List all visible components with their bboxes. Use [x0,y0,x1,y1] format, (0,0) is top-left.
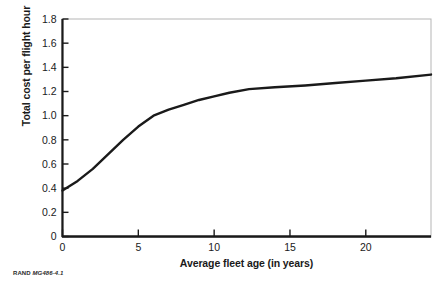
x-tick-label: 0 [60,241,66,253]
y-tick-label: 0.6 [42,158,57,170]
y-tick-label: 1.0 [42,109,57,121]
figure-container: Total cost per flight hour 00.20.40.60.8… [0,0,448,293]
figure-credit: RAND MG486-4.1 [13,270,63,276]
x-axis-title: Average fleet age (in years) [62,257,431,269]
data-line-total-cost [63,75,432,191]
y-tick-label: 0.2 [42,206,57,218]
plot-frame [62,19,431,237]
y-tick-label: 0.8 [42,134,57,146]
y-tick-label: 0 [51,230,57,242]
y-axis-title: Total cost per flight hour [20,0,32,166]
credit-figure-id: MG486-4.1 [33,270,64,276]
y-tick-label: 1.4 [42,61,57,73]
y-tick-label: 1.2 [42,85,57,97]
y-tick-label: 0.4 [42,182,57,194]
y-tick-label: 1.6 [42,37,57,49]
y-axis-ticks: 00.20.40.60.81.01.21.41.61.8 [42,13,69,243]
x-tick-label: 5 [135,241,141,253]
x-tick-label: 15 [284,241,296,253]
line-chart-plot: 00.20.40.60.81.01.21.41.61.8 05101520 [0,0,448,293]
y-tick-label: 1.8 [42,13,57,25]
x-tick-label: 20 [360,241,372,253]
x-axis-ticks: 05101520 [60,230,372,253]
x-tick-label: 10 [208,241,220,253]
credit-organization: RAND [13,270,31,276]
